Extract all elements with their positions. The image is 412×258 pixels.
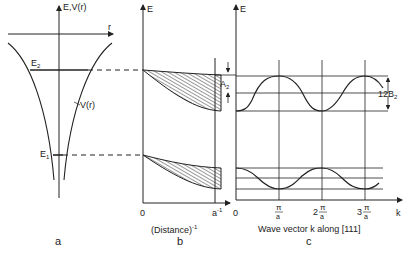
svg-text:π: π — [276, 203, 282, 212]
potential-label: V(r) — [80, 100, 95, 110]
svg-text:π: π — [320, 203, 326, 212]
tick-label-2pi-a: 2 π a — [313, 203, 327, 220]
upper-band-fan — [143, 70, 221, 111]
svg-text:3: 3 — [357, 207, 362, 217]
tick-label-pi-a: π a — [275, 203, 283, 220]
x-origin-b: 0 — [140, 208, 145, 218]
tight-binding-diagram: E,V(r) r V(r) E2 E1 a E A2 0 a-1 (Distan — [0, 0, 412, 258]
bandwidth-label: 12B2 — [378, 89, 398, 100]
panel-c: E 12B2 0 π a 2 π a — [233, 4, 402, 247]
svg-text:π: π — [364, 203, 370, 212]
svg-text:2: 2 — [313, 207, 318, 217]
a2-label: A2 — [220, 79, 230, 90]
lower-band-fan — [143, 155, 221, 189]
panel-a: E,V(r) r V(r) E2 E1 a — [8, 2, 143, 247]
xlabel-b: (Distance)-1 — [151, 224, 198, 235]
xlabel-c: Wave vector k along [111] — [258, 224, 360, 234]
axis-label-a: E,V(r) — [63, 2, 87, 12]
potential-curve-right — [64, 43, 112, 180]
x-end-b: a-1 — [212, 207, 223, 218]
tick-label-3pi-a: 3 π a — [357, 203, 371, 220]
level-e2-label: E2 — [31, 58, 41, 69]
k-label: k — [396, 208, 401, 218]
svg-text:a: a — [276, 213, 280, 220]
r-label: r — [108, 22, 111, 32]
caption-a: a — [55, 235, 62, 247]
panel-b: E A2 0 a-1 (Distance)-1 b — [140, 4, 236, 247]
axis-label-b: E — [147, 4, 153, 14]
svg-text:a: a — [364, 213, 368, 220]
lower-band-curve — [236, 168, 379, 189]
upper-band-curve — [236, 76, 383, 111]
axis-label-c: E — [240, 4, 246, 14]
level-e1-label: E1 — [40, 149, 50, 160]
caption-c: c — [306, 235, 312, 247]
caption-b: b — [177, 235, 183, 247]
svg-text:a: a — [320, 213, 324, 220]
x-origin-c: 0 — [233, 208, 238, 218]
